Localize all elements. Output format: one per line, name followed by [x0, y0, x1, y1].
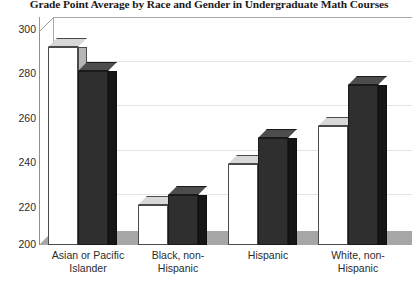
y-tick-label-260: 260 — [2, 113, 36, 124]
bar-asian-or-pacific-islander-series-1[interactable] — [48, 38, 78, 245]
bar-hispanic-series-1[interactable] — [228, 155, 258, 245]
bar-hispanic-series-2[interactable] — [258, 129, 288, 245]
bar-front-face — [348, 85, 378, 245]
y-tick-label-240: 240 — [2, 157, 36, 168]
y-axis-labels: 300 280 260 240 220 200 — [0, 0, 36, 287]
y-tick-label-220: 220 — [2, 202, 36, 213]
y-axis-line — [39, 31, 40, 245]
bar-side-face — [288, 138, 297, 245]
x-category-label-white-non-hispanic: White, non- Hispanic — [298, 249, 418, 274]
x-category-line-1: White, non- — [298, 249, 418, 262]
y-tick-label-300: 300 — [2, 24, 36, 35]
plot-area: 300 280 260 240 220 200 — [0, 0, 418, 287]
x-category-line-2: Hispanic — [298, 262, 418, 275]
bar-side-face — [108, 71, 117, 245]
x-category-line-2: Hispanic — [118, 262, 238, 275]
bar-front-face — [258, 138, 288, 245]
bar-side-face — [198, 195, 207, 245]
axis-perspective-line — [39, 17, 54, 32]
chart-container: Grade Point Average by Race and Gender i… — [0, 0, 418, 287]
bar-front-face — [138, 205, 168, 245]
y-tick-label-280: 280 — [2, 68, 36, 79]
bar-side-face — [378, 85, 387, 245]
bar-front-face — [228, 164, 258, 245]
bar-white-non-hispanic-series-1[interactable] — [318, 117, 348, 245]
bar-front-face — [168, 195, 198, 245]
bar-front-face — [318, 126, 348, 245]
bar-black-non-hispanic-series-2[interactable] — [168, 186, 198, 245]
bar-white-non-hispanic-series-2[interactable] — [348, 76, 378, 245]
bar-front-face — [48, 47, 78, 245]
bar-black-non-hispanic-series-1[interactable] — [138, 196, 168, 245]
bar-front-face — [78, 71, 108, 245]
bar-asian-or-pacific-islander-series-2[interactable] — [78, 62, 108, 245]
